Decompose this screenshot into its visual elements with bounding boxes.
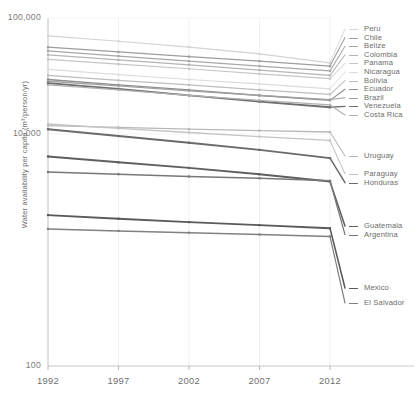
legend-label-peru[interactable]: Peru <box>364 25 381 33</box>
legend-label-argentina[interactable]: Argentina <box>364 231 398 239</box>
legend-swatch-colombia <box>349 55 358 56</box>
legend-swatch-guatemala <box>349 226 358 227</box>
plot-area <box>0 0 418 410</box>
legend-swatch-bolivia <box>349 81 358 82</box>
legend-label-nicaragua[interactable]: Nicaragua <box>364 68 400 76</box>
water-availability-line-chart: Water availability per capita (m³/person… <box>0 0 418 410</box>
legend-label-el-salvador[interactable]: El Salvador <box>364 299 404 307</box>
legend-swatch-mexico <box>349 288 358 289</box>
legend-label-mexico[interactable]: Mexico <box>364 284 389 292</box>
legend-label-belize[interactable]: Belize <box>364 42 386 50</box>
legend-label-honduras[interactable]: Honduras <box>364 179 398 187</box>
legend-label-guatemala[interactable]: Guatemala <box>364 222 403 230</box>
legend-swatch-paraguay <box>349 174 358 175</box>
x-tick-label: 2007 <box>240 375 280 386</box>
x-tick-label: 2002 <box>169 375 209 386</box>
legend-swatch-honduras <box>349 183 358 184</box>
legend-label-costa-rica[interactable]: Costa Rica <box>364 111 403 119</box>
legend-label-ecuador[interactable]: Ecuador <box>364 85 393 93</box>
legend-label-paraguay[interactable]: Paraguay <box>364 170 398 178</box>
legend-swatch-ecuador <box>349 89 358 90</box>
x-tick-label: 2012 <box>310 375 350 386</box>
y-tick-label: 10,000 <box>0 128 41 138</box>
legend-swatch-peru <box>349 29 358 30</box>
legend-swatch-argentina <box>349 235 358 236</box>
legend-swatch-chile <box>349 38 358 39</box>
x-tick-label: 1992 <box>28 375 68 386</box>
legend-swatch-brazil <box>349 98 358 99</box>
legend-swatch-belize <box>349 46 358 47</box>
y-tick-label: 100,000 <box>0 12 41 22</box>
legend-swatch-costa-rica <box>349 115 358 116</box>
legend-swatch-nicaragua <box>349 72 358 73</box>
legend-swatch-uruguay <box>349 156 358 157</box>
legend-label-uruguay[interactable]: Uruguay <box>364 152 394 160</box>
x-tick-label: 1997 <box>99 375 139 386</box>
legend-swatch-venezuela <box>349 106 358 107</box>
y-tick-label: 100 <box>0 360 41 370</box>
legend-swatch-panama <box>349 63 358 64</box>
legend-swatch-el-salvador <box>349 303 358 304</box>
